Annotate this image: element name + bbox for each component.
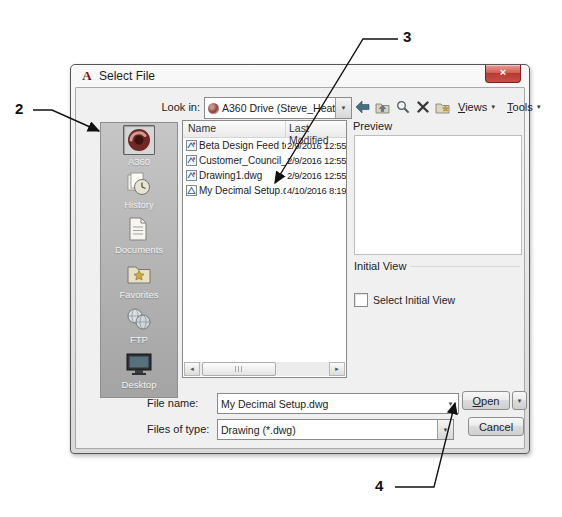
favorites-icon xyxy=(126,262,152,286)
file-modified: 2/9/2016 12:55 xyxy=(286,170,346,181)
new-folder-icon xyxy=(435,101,450,114)
back-icon xyxy=(356,101,370,113)
scroll-left-icon: ◄ xyxy=(189,366,195,372)
ftp-icon xyxy=(126,307,152,331)
a360-drive-icon xyxy=(208,103,219,114)
delete-button[interactable] xyxy=(414,98,431,116)
place-ftp[interactable]: FTP xyxy=(104,305,174,350)
dwg-file-icon xyxy=(186,170,197,181)
place-label: FTP xyxy=(130,334,148,345)
search-icon xyxy=(396,100,410,114)
desktop-icon xyxy=(125,352,153,376)
autocad-logo-icon: A xyxy=(80,69,94,83)
figure-canvas: A Select File × Look in: A360 Drive (Ste… xyxy=(0,0,562,517)
file-name: My Decimal Setup.dwg xyxy=(199,185,286,196)
file-modified: 4/10/2016 8:19 xyxy=(286,185,346,196)
file-row[interactable]: My Decimal Setup.dwg 4/10/2016 8:19 xyxy=(183,183,346,198)
file-name: Drawing1.dwg xyxy=(199,170,286,181)
dwg-file-icon xyxy=(186,155,197,166)
place-history[interactable]: History xyxy=(104,170,174,215)
open-button-label: Open xyxy=(473,395,500,407)
file-name-label: File name: xyxy=(147,397,198,409)
views-menu-button[interactable]: Views ▼ xyxy=(454,99,500,115)
places-bar: A360 History xyxy=(100,122,178,398)
place-desktop[interactable]: Desktop xyxy=(104,350,174,395)
look-in-label: Look in: xyxy=(132,101,200,113)
tools-label: Tools xyxy=(507,101,533,113)
up-folder-button[interactable] xyxy=(374,98,391,116)
chevron-down-icon: ▼ xyxy=(448,401,454,407)
place-documents[interactable]: Documents xyxy=(104,215,174,260)
scroll-right-button[interactable]: ► xyxy=(329,362,345,376)
select-initial-view-row[interactable]: Select Initial View xyxy=(354,293,455,307)
file-name-value: My Decimal Setup.dwg xyxy=(218,398,443,410)
history-icon xyxy=(126,172,152,196)
delete-x-icon xyxy=(417,101,429,113)
open-split-button[interactable]: ▼ xyxy=(512,391,527,410)
place-a360[interactable]: A360 xyxy=(104,125,174,170)
open-button[interactable]: Open xyxy=(462,391,510,410)
look-in-combobox[interactable]: A360 Drive (Steve_Heather) ▼ xyxy=(204,97,352,119)
look-in-value: A360 Drive (Steve_Heather) xyxy=(219,102,335,114)
file-name-combobox[interactable]: My Decimal Setup.dwg ▼ xyxy=(217,393,459,414)
place-label: Favorites xyxy=(119,289,158,300)
file-name: Beta Design Feed test f... xyxy=(199,140,286,151)
file-row[interactable]: Beta Design Feed test f... 2/9/2016 12:5… xyxy=(183,138,346,153)
column-header-last-modified[interactable]: Last Modified xyxy=(286,121,346,137)
new-folder-button[interactable] xyxy=(434,98,451,116)
horizontal-scrollbar: ◄ ► xyxy=(184,362,345,376)
views-label: Views xyxy=(458,101,487,113)
dialog-toolbar: Views ▼ Tools ▼ xyxy=(354,96,546,118)
chevron-down-icon: ▼ xyxy=(341,105,347,111)
column-header-name[interactable]: Name xyxy=(183,121,286,137)
file-name: Customer_Council_log... xyxy=(199,155,286,166)
select-initial-view-label: Select Initial View xyxy=(373,294,455,306)
search-button[interactable] xyxy=(394,98,411,116)
scroll-left-button[interactable]: ◄ xyxy=(184,362,200,376)
place-label: Desktop xyxy=(122,379,157,390)
tools-menu-button[interactable]: Tools ▼ xyxy=(503,99,546,115)
initial-view-group: Initial View xyxy=(354,266,520,267)
chevron-down-icon: ▼ xyxy=(536,104,542,110)
file-row[interactable]: Customer_Council_log... 2/9/2016 12:55 xyxy=(183,153,346,168)
cancel-button[interactable]: Cancel xyxy=(468,417,524,436)
dialog-title: Select File xyxy=(99,69,155,83)
look-in-dropdown-button[interactable]: ▼ xyxy=(335,98,351,118)
close-button[interactable]: × xyxy=(485,65,521,83)
a360-icon xyxy=(126,127,152,153)
documents-icon xyxy=(127,216,151,242)
files-of-type-combobox[interactable]: Drawing (*.dwg) ▼ xyxy=(217,419,454,440)
files-of-type-label: Files of type: xyxy=(147,423,209,435)
file-row[interactable]: Drawing1.dwg 2/9/2016 12:55 xyxy=(183,168,346,183)
dwg-file-icon xyxy=(186,140,197,151)
scroll-right-icon: ► xyxy=(334,366,340,372)
chevron-down-icon: ▼ xyxy=(443,427,449,433)
dialog-content: Look in: A360 Drive (Steve_Heather) ▼ xyxy=(75,87,525,449)
initial-view-label: Initial View xyxy=(354,260,411,272)
callout-number-2: 2 xyxy=(15,100,23,117)
files-of-type-value: Drawing (*.dwg) xyxy=(218,424,437,436)
file-modified: 2/9/2016 12:55 xyxy=(286,155,346,166)
select-initial-view-checkbox[interactable] xyxy=(354,293,368,307)
file-name-dropdown-button[interactable]: ▼ xyxy=(443,394,458,413)
back-button[interactable] xyxy=(354,98,371,116)
place-favorites[interactable]: Favorites xyxy=(104,260,174,305)
cancel-button-label: Cancel xyxy=(479,421,513,433)
titlebar[interactable]: A Select File xyxy=(71,65,529,87)
scrollbar-thumb[interactable] xyxy=(202,362,276,376)
files-of-type-dropdown-button[interactable]: ▼ xyxy=(437,420,453,439)
preview-label: Preview xyxy=(353,120,392,132)
dwg-file-icon xyxy=(186,185,197,196)
file-list: Name Last Modified Beta Design Feed test… xyxy=(182,120,347,378)
chevron-down-icon: ▼ xyxy=(490,104,496,110)
place-label: Documents xyxy=(115,244,163,255)
callout-number-4: 4 xyxy=(375,477,383,494)
place-label: A360 xyxy=(128,156,150,167)
callout-number-3: 3 xyxy=(403,28,411,45)
select-file-dialog: A Select File × Look in: A360 Drive (Ste… xyxy=(70,64,530,454)
file-modified: 2/9/2016 12:55 xyxy=(286,140,346,151)
file-list-header: Name Last Modified xyxy=(183,121,346,138)
preview-pane xyxy=(354,135,522,255)
place-label: History xyxy=(124,199,154,210)
chevron-down-icon: ▼ xyxy=(517,398,523,404)
